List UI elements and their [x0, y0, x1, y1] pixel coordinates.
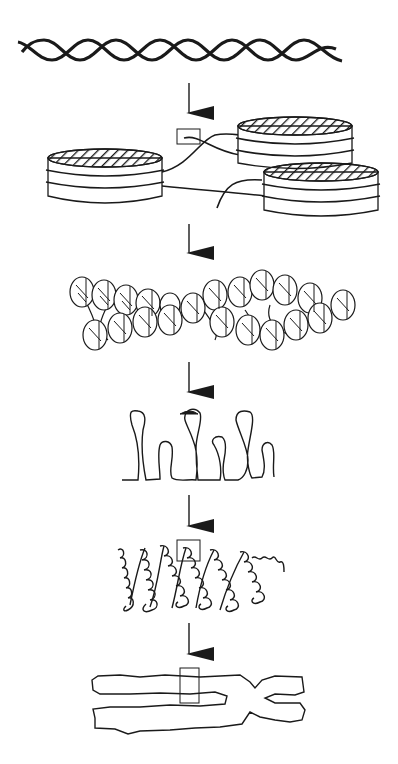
nucleosomes: [46, 117, 380, 216]
chromosome: [92, 668, 305, 734]
zoom-box: [177, 129, 200, 144]
looped-domains: [122, 409, 274, 480]
chromatin-fiber: [70, 270, 355, 350]
zoom-box: [180, 668, 199, 703]
coiled-loops: [118, 540, 284, 612]
double-helix: [18, 40, 342, 61]
dna-packaging-diagram: [0, 0, 398, 764]
